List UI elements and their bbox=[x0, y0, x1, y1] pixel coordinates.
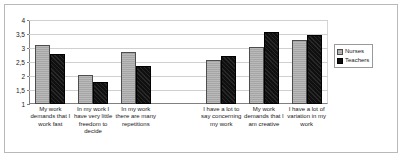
bar-nurses bbox=[292, 40, 307, 104]
y-tick-label: 2 bbox=[21, 73, 25, 80]
y-tick-mark bbox=[27, 104, 30, 105]
legend-item-teachers: Teachers bbox=[337, 56, 369, 65]
bar-nurses bbox=[206, 60, 221, 104]
y-tick-label: 3 bbox=[21, 45, 25, 52]
y-tick-label: 3,5 bbox=[16, 31, 25, 38]
bar-nurses bbox=[78, 75, 93, 104]
bar-nurses bbox=[35, 45, 50, 104]
y-tick-label: 1 bbox=[21, 101, 25, 108]
legend-label-nurses: Nurses bbox=[345, 48, 364, 55]
legend-swatch-teachers-icon bbox=[337, 58, 343, 64]
category-labels: My work demands that I work fastIn my wo… bbox=[29, 106, 328, 152]
bar-teachers bbox=[136, 66, 151, 104]
bar-nurses bbox=[249, 47, 264, 104]
category-label: In my work there are many repetitions bbox=[114, 106, 157, 152]
bar-teachers bbox=[307, 35, 322, 104]
y-axis: 43,532,521,51 bbox=[6, 14, 27, 110]
category-label: My work demands that I work fast bbox=[29, 106, 72, 152]
y-tick-label: 2,5 bbox=[16, 59, 25, 66]
category-label: I have a lot of variation in my work bbox=[285, 106, 328, 152]
bar-group bbox=[200, 20, 243, 104]
bar-group bbox=[72, 20, 115, 104]
plot-area-wrapper bbox=[29, 20, 328, 104]
bar-group bbox=[243, 20, 286, 104]
bar-group bbox=[157, 20, 200, 104]
bars-layer bbox=[29, 20, 328, 104]
bar-teachers bbox=[264, 32, 279, 104]
category-label: In my work I have very little freedom to… bbox=[72, 106, 115, 152]
legend-item-nurses: Nurses bbox=[337, 47, 369, 56]
y-tick-label: 1,5 bbox=[16, 87, 25, 94]
category-label-empty bbox=[157, 106, 200, 152]
bar-teachers bbox=[50, 54, 65, 104]
bar-group bbox=[29, 20, 72, 104]
bar-teachers bbox=[221, 56, 236, 104]
chart-legend: Nurses Teachers bbox=[334, 44, 373, 68]
y-tick-label: 4 bbox=[21, 17, 25, 24]
bar-group bbox=[114, 20, 157, 104]
category-label: I have a lot to say concerning my work bbox=[200, 106, 243, 152]
legend-label-teachers: Teachers bbox=[345, 57, 369, 64]
legend-swatch-nurses-icon bbox=[337, 49, 343, 55]
category-label: My work demands that I am creative bbox=[243, 106, 286, 152]
bar-teachers bbox=[93, 82, 108, 104]
bar-group bbox=[285, 20, 328, 104]
bar-nurses bbox=[121, 52, 136, 104]
bar-chart-figure: 43,532,521,51 My work demands that I wor… bbox=[0, 0, 402, 157]
